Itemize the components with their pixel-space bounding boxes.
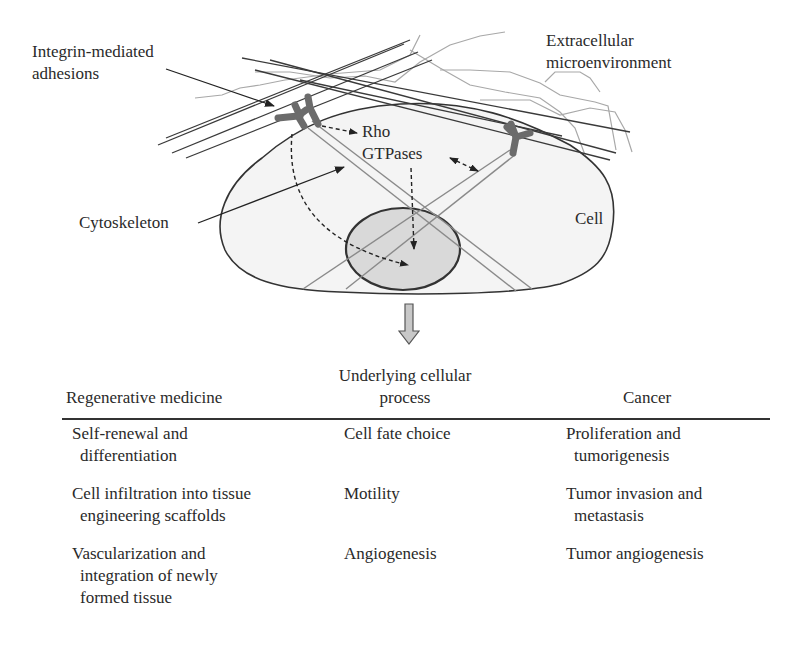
row3-process: Angiogenesis — [344, 543, 437, 565]
row3-cancer: Tumor angiogenesis — [566, 543, 704, 565]
rho-gtpases-label: Rho GTPases — [362, 121, 422, 165]
header-divider — [62, 418, 770, 420]
cell-adhesion-diagram: Integrin-mediated adhesions Extracellula… — [0, 0, 804, 320]
cytoskeleton-label: Cytoskeleton — [79, 212, 169, 234]
down-arrow-icon — [398, 303, 420, 345]
row2-process: Motility — [344, 483, 400, 505]
extracellular-label: Extracellular microenvironment — [546, 30, 672, 74]
row2-regenerative: Cell infiltration into tissue engineerin… — [72, 483, 251, 527]
header-regenerative-medicine: Regenerative medicine — [66, 387, 222, 409]
integrin-label: Integrin-mediated adhesions — [32, 41, 154, 85]
integrin-pointer-arrow — [166, 69, 274, 106]
cell-label: Cell — [575, 208, 603, 230]
row1-process: Cell fate choice — [344, 423, 451, 445]
row1-regenerative: Self-renewal and differentiation — [72, 423, 188, 467]
row3-regenerative: Vascularization and integration of newly… — [72, 543, 218, 609]
row2-cancer: Tumor invasion and metastasis — [566, 483, 702, 527]
header-underlying-process: Underlying cellular process — [310, 365, 500, 409]
header-cancer: Cancer — [623, 387, 671, 409]
row1-cancer: Proliferation and tumorigenesis — [566, 423, 681, 467]
